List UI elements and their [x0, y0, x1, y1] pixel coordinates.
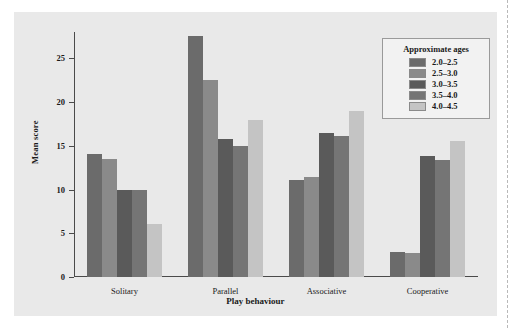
bar[interactable]	[334, 136, 349, 277]
bar-set	[87, 32, 162, 277]
bar[interactable]	[132, 190, 147, 277]
x-axis-category-label: Solitary	[111, 286, 138, 296]
bar[interactable]	[319, 133, 334, 277]
bar[interactable]	[203, 80, 218, 277]
legend-entry-label: 3.5–4.0	[432, 90, 458, 100]
bar-group: Solitary	[74, 32, 175, 277]
bar[interactable]	[405, 253, 420, 277]
bar-group: Associative	[276, 32, 377, 277]
bar[interactable]	[420, 156, 435, 277]
bar[interactable]	[450, 141, 465, 278]
legend-entry-label: 3.0–3.5	[432, 79, 458, 89]
bar[interactable]	[87, 154, 102, 277]
legend-swatch	[409, 102, 426, 111]
bar-set	[289, 32, 364, 277]
x-axis-title: Play behaviour	[14, 296, 497, 306]
y-axis-tick-label: 5	[61, 228, 65, 238]
x-axis-category-label: Parallel	[213, 286, 239, 296]
legend-entry[interactable]: 3.5–4.0	[391, 90, 481, 100]
y-axis-tick: 0	[69, 277, 74, 278]
legend-entry[interactable]: 3.0–3.5	[391, 79, 481, 89]
legend-swatch	[409, 91, 426, 100]
bar[interactable]	[102, 159, 117, 277]
legend-entry-label: 2.0–2.5	[432, 57, 458, 67]
y-axis-tick-label: 10	[57, 185, 66, 195]
bar-set	[188, 32, 263, 277]
legend-entry-label: 4.0–4.5	[432, 101, 458, 111]
x-axis-category-label: Associative	[307, 286, 347, 296]
bar[interactable]	[218, 139, 233, 277]
legend-swatch	[409, 69, 426, 78]
x-axis-category-label: Cooperative	[407, 286, 449, 296]
legend-swatch	[409, 58, 426, 67]
page-margin-rule	[507, 0, 508, 328]
figure-page: Mean score 0510152025 SolitaryParallelAs…	[0, 0, 516, 328]
bar[interactable]	[349, 111, 364, 277]
y-axis-tick-label: 25	[57, 53, 66, 63]
legend-entry[interactable]: 4.0–4.5	[391, 101, 481, 111]
bar[interactable]	[117, 190, 132, 277]
bar[interactable]	[289, 180, 304, 277]
legend: Approximate ages 2.0–2.52.5–3.03.0–3.53.…	[382, 38, 490, 119]
legend-entry[interactable]: 2.0–2.5	[391, 57, 481, 67]
y-axis-tick-label: 20	[57, 97, 66, 107]
y-axis-tick-label: 15	[57, 141, 66, 151]
bar-group: Parallel	[175, 32, 276, 277]
bar[interactable]	[390, 252, 405, 277]
legend-title: Approximate ages	[391, 44, 481, 54]
legend-entry-label: 2.5–3.0	[432, 68, 458, 78]
legend-entry[interactable]: 2.5–3.0	[391, 68, 481, 78]
y-axis-title: Mean score	[30, 120, 40, 164]
legend-entries: 2.0–2.52.5–3.03.0–3.53.5–4.04.0–4.5	[391, 57, 481, 111]
legend-swatch	[409, 80, 426, 89]
bar[interactable]	[435, 160, 450, 277]
bar[interactable]	[304, 177, 319, 277]
chart-panel: Mean score 0510152025 SolitaryParallelAs…	[14, 12, 497, 316]
bar[interactable]	[233, 146, 248, 277]
bar[interactable]	[147, 224, 162, 277]
bar[interactable]	[248, 120, 263, 277]
bar[interactable]	[188, 36, 203, 277]
y-axis-tick-label: 0	[61, 272, 65, 282]
